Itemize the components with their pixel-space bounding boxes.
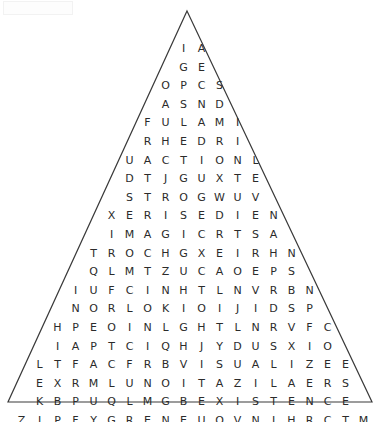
letter-cell[interactable]: G: [157, 395, 175, 408]
letter-cell[interactable]: D: [265, 302, 283, 315]
letter-cell[interactable]: O: [139, 302, 157, 315]
letter-cell[interactable]: V: [283, 321, 301, 334]
letter-cell[interactable]: I: [139, 284, 157, 297]
letter-cell[interactable]: H: [49, 321, 67, 334]
letter-cell[interactable]: O: [319, 340, 337, 353]
letter-cell[interactable]: I: [193, 154, 211, 167]
letter-cell[interactable]: B: [175, 395, 193, 408]
letter-cell[interactable]: E: [175, 414, 193, 422]
letter-cell[interactable]: B: [283, 284, 301, 297]
letter-cell[interactable]: C: [103, 358, 121, 371]
letter-cell[interactable]: E: [193, 209, 211, 222]
letter-cell[interactable]: Z: [13, 414, 31, 422]
letter-cell[interactable]: L: [175, 116, 193, 129]
letter-cell[interactable]: C: [319, 414, 337, 422]
letter-cell[interactable]: O: [175, 191, 193, 204]
letter-cell[interactable]: O: [157, 79, 175, 92]
letter-cell[interactable]: S: [175, 98, 193, 111]
letter-cell[interactable]: T: [211, 321, 229, 334]
letter-cell[interactable]: V: [175, 358, 193, 371]
letter-cell[interactable]: O: [121, 247, 139, 260]
letter-cell[interactable]: T: [103, 340, 121, 353]
letter-cell[interactable]: R: [211, 228, 229, 241]
letter-cell[interactable]: G: [103, 414, 121, 422]
letter-cell[interactable]: Y: [211, 340, 229, 353]
letter-cell[interactable]: E: [121, 209, 139, 222]
letter-cell[interactable]: I: [175, 228, 193, 241]
letter-cell[interactable]: C: [193, 228, 211, 241]
letter-cell[interactable]: R: [67, 377, 85, 390]
letter-cell[interactable]: M: [211, 116, 229, 129]
letter-cell[interactable]: N: [157, 414, 175, 422]
letter-cell[interactable]: Z: [157, 265, 175, 278]
letter-cell[interactable]: T: [265, 395, 283, 408]
letter-cell[interactable]: S: [121, 191, 139, 204]
letter-cell[interactable]: Q: [85, 265, 103, 278]
letter-cell[interactable]: H: [157, 247, 175, 260]
letter-cell[interactable]: O: [193, 302, 211, 315]
letter-cell[interactable]: N: [265, 209, 283, 222]
letter-cell[interactable]: O: [85, 302, 103, 315]
letter-cell[interactable]: T: [139, 265, 157, 278]
letter-cell[interactable]: J: [229, 302, 247, 315]
letter-cell[interactable]: M: [85, 377, 103, 390]
letter-cell[interactable]: H: [175, 340, 193, 353]
letter-cell[interactable]: U: [229, 358, 247, 371]
letter-cell[interactable]: T: [193, 377, 211, 390]
letter-cell[interactable]: L: [121, 395, 139, 408]
letter-cell[interactable]: F: [103, 284, 121, 297]
letter-cell[interactable]: E: [193, 61, 211, 74]
letter-cell[interactable]: J: [265, 414, 283, 422]
letter-cell[interactable]: I: [229, 135, 247, 148]
letter-cell[interactable]: L: [103, 265, 121, 278]
letter-cell[interactable]: S: [283, 302, 301, 315]
letter-cell[interactable]: U: [247, 340, 265, 353]
letter-cell[interactable]: J: [193, 340, 211, 353]
letter-cell[interactable]: M: [121, 265, 139, 278]
letter-cell[interactable]: T: [49, 358, 67, 371]
letter-cell[interactable]: R: [103, 247, 121, 260]
letter-cell[interactable]: E: [301, 377, 319, 390]
letter-cell[interactable]: R: [139, 135, 157, 148]
letter-cell[interactable]: E: [247, 265, 265, 278]
letter-cell[interactable]: A: [211, 265, 229, 278]
letter-cell[interactable]: T: [175, 154, 193, 167]
letter-cell[interactable]: C: [319, 321, 337, 334]
letter-cell[interactable]: N: [67, 302, 85, 315]
letter-cell[interactable]: C: [121, 340, 139, 353]
letter-cell[interactable]: O: [211, 154, 229, 167]
letter-cell[interactable]: U: [121, 377, 139, 390]
letter-cell[interactable]: I: [193, 358, 211, 371]
letter-cell[interactable]: P: [175, 79, 193, 92]
letter-cell[interactable]: R: [301, 414, 319, 422]
letter-cell[interactable]: U: [193, 414, 211, 422]
letter-cell[interactable]: R: [265, 284, 283, 297]
letter-cell[interactable]: R: [247, 247, 265, 260]
letter-cell[interactable]: I: [175, 42, 193, 55]
letter-cell[interactable]: P: [265, 265, 283, 278]
letter-cell[interactable]: S: [283, 265, 301, 278]
letter-cell[interactable]: F: [67, 358, 85, 371]
letter-cell[interactable]: A: [211, 377, 229, 390]
letter-cell[interactable]: I: [175, 377, 193, 390]
letter-cell[interactable]: I: [175, 302, 193, 315]
letter-cell[interactable]: M: [139, 395, 157, 408]
letter-cell[interactable]: N: [139, 321, 157, 334]
letter-cell[interactable]: I: [121, 321, 139, 334]
letter-cell[interactable]: O: [229, 265, 247, 278]
letter-cell[interactable]: L: [211, 284, 229, 297]
letter-cell[interactable]: H: [157, 135, 175, 148]
letter-cell[interactable]: G: [175, 247, 193, 260]
letter-cell[interactable]: G: [175, 321, 193, 334]
letter-cell[interactable]: G: [193, 191, 211, 204]
letter-cell[interactable]: A: [139, 228, 157, 241]
letter-cell[interactable]: I: [211, 302, 229, 315]
letter-cell[interactable]: X: [211, 172, 229, 185]
letter-cell[interactable]: H: [193, 321, 211, 334]
letter-cell[interactable]: K: [157, 302, 175, 315]
letter-cell[interactable]: A: [247, 358, 265, 371]
letter-cell[interactable]: D: [211, 98, 229, 111]
letter-cell[interactable]: I: [229, 116, 247, 129]
letter-cell[interactable]: N: [139, 377, 157, 390]
letter-cell[interactable]: I: [283, 358, 301, 371]
